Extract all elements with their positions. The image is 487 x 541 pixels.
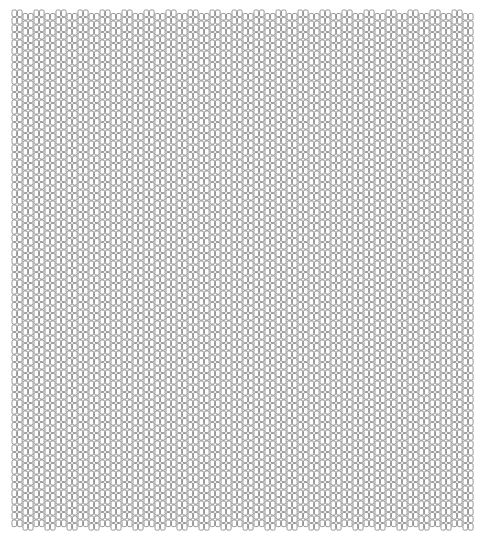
- bead-cell: [117, 164, 122, 171]
- bead-cell: [29, 104, 34, 111]
- bead-cell: [232, 18, 237, 25]
- bead-cell: [12, 280, 17, 287]
- bead-cell: [359, 329, 364, 336]
- bead-cell: [331, 449, 336, 456]
- bead-cell: [386, 498, 391, 505]
- bead-cell: [227, 419, 232, 426]
- bead-cell: [73, 344, 78, 351]
- bead-cell: [304, 100, 309, 107]
- bead-cell: [122, 423, 127, 430]
- bead-cell: [100, 310, 105, 317]
- bead-cell: [326, 475, 331, 482]
- bead-cell: [161, 411, 166, 418]
- bead-cell: [128, 130, 133, 137]
- bead-cell: [139, 51, 144, 58]
- bead-cell: [227, 164, 232, 171]
- bead-cell: [414, 400, 419, 407]
- bead-cell: [111, 74, 116, 81]
- bead-cell: [276, 273, 281, 280]
- bead-cell: [194, 438, 199, 445]
- bead-cell: [23, 501, 28, 508]
- bead-cell: [18, 78, 23, 85]
- bead-cell: [150, 520, 155, 527]
- bead-cell: [403, 449, 408, 456]
- bead-cell: [144, 423, 149, 430]
- bead-cell: [62, 513, 67, 520]
- bead-cell: [260, 198, 265, 205]
- bead-cell: [89, 441, 94, 448]
- bead-cell: [128, 18, 133, 25]
- bead-cell: [227, 194, 232, 201]
- bead-cell: [403, 276, 408, 283]
- bead-cell: [100, 498, 105, 505]
- bead-cell: [309, 464, 314, 471]
- bead-cell: [227, 509, 232, 516]
- bead-cell: [436, 355, 441, 362]
- bead-cell: [364, 265, 369, 272]
- bead-cell: [271, 231, 276, 238]
- bead-cell: [95, 239, 100, 246]
- bead-cell: [95, 314, 100, 321]
- bead-cell: [397, 149, 402, 156]
- bead-cell: [67, 441, 72, 448]
- bead-cell: [227, 306, 232, 313]
- bead-cell: [62, 295, 67, 302]
- bead-cell: [392, 130, 397, 137]
- bead-cell: [304, 145, 309, 152]
- bead-cell: [403, 36, 408, 43]
- bead-cell: [337, 119, 342, 126]
- bead-cell: [249, 126, 254, 133]
- bead-cell: [238, 33, 243, 40]
- bead-cell: [199, 291, 204, 298]
- bead-cell: [67, 351, 72, 358]
- bead-cell: [397, 366, 402, 373]
- bead-cell: [40, 400, 45, 407]
- bead-cell: [238, 325, 243, 332]
- bead-cell: [144, 498, 149, 505]
- bead-cell: [18, 93, 23, 100]
- bead-cell: [287, 456, 292, 463]
- bead-cell: [282, 438, 287, 445]
- bead-cell: [414, 370, 419, 377]
- bead-cell: [458, 108, 463, 115]
- bead-cell: [166, 108, 171, 115]
- bead-cell: [287, 216, 292, 223]
- bead-cell: [210, 205, 215, 212]
- bead-cell: [397, 44, 402, 51]
- bead-cell: [353, 141, 358, 148]
- bead-cell: [397, 224, 402, 231]
- bead-cell: [78, 408, 83, 415]
- bead-cell: [414, 355, 419, 362]
- bead-cell: [45, 396, 50, 403]
- bead-cell: [216, 100, 221, 107]
- bead-cell: [12, 295, 17, 302]
- bead-cell: [463, 299, 468, 306]
- bead-cell: [188, 513, 193, 520]
- bead-cell: [452, 408, 457, 415]
- bead-cell: [56, 393, 61, 400]
- bead-cell: [436, 168, 441, 175]
- bead-cell: [144, 408, 149, 415]
- bead-cell: [172, 220, 177, 227]
- bead-cell: [287, 119, 292, 126]
- bead-cell: [386, 235, 391, 242]
- bead-cell: [320, 498, 325, 505]
- bead-cell: [67, 404, 72, 411]
- bead-cell: [18, 138, 23, 145]
- bead-cell: [111, 89, 116, 96]
- bead-cell: [458, 93, 463, 100]
- bead-cell: [271, 404, 276, 411]
- bead-cell: [18, 183, 23, 190]
- bead-cell: [29, 254, 34, 261]
- bead-cell: [205, 486, 210, 493]
- bead-cell: [34, 445, 39, 452]
- bead-cell: [469, 224, 474, 231]
- bead-cell: [408, 333, 413, 340]
- bead-cell: [375, 434, 380, 441]
- bead-cell: [34, 130, 39, 137]
- bead-cell: [89, 299, 94, 306]
- bead-cell: [133, 404, 138, 411]
- bead-cell: [430, 460, 435, 467]
- bead-cell: [430, 333, 435, 340]
- bead-cell: [199, 36, 204, 43]
